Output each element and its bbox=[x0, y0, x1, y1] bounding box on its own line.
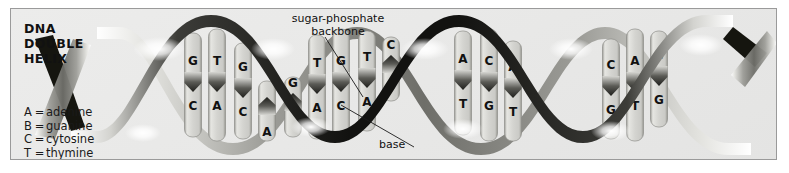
title-line-3: HELIX bbox=[24, 51, 84, 66]
base-letter-top: A bbox=[630, 54, 640, 68]
title-line-1: DNA bbox=[24, 21, 84, 36]
legend-eq-a: = bbox=[33, 106, 46, 120]
base-legend: A=adenine B=guanine C=cytosine T=thymine bbox=[24, 106, 94, 160]
base-letter-top: G bbox=[238, 60, 248, 74]
base-letter-bottom: T bbox=[459, 97, 468, 111]
legend-row-c: C=cytosine bbox=[24, 133, 94, 147]
legend-name-c: cytosine bbox=[46, 132, 94, 146]
base-letter-top: C bbox=[607, 58, 616, 72]
figure-title: DNA DOUBLE HELIX bbox=[24, 21, 84, 66]
diagram-panel: GCTAGCAGTAGCTACATCGATCGATCG bbox=[10, 8, 777, 160]
legend-name-a: adenine bbox=[46, 105, 92, 119]
base-letter-top: T bbox=[313, 56, 322, 70]
base-letter-top: C bbox=[485, 54, 494, 68]
legend-row-b: B=guanine bbox=[24, 120, 94, 134]
base-letter-bottom: A bbox=[262, 125, 272, 139]
base-pair-rung: A bbox=[259, 81, 276, 141]
legend-key-b: B bbox=[24, 120, 33, 134]
legend-name-t: thymine bbox=[46, 146, 93, 160]
base-letter-top: T bbox=[213, 54, 222, 68]
callout-label-base: base bbox=[379, 139, 421, 152]
legend-key-t: T bbox=[24, 147, 33, 161]
base-pair-rung: GC bbox=[185, 33, 202, 137]
base-letter-top: A bbox=[458, 52, 468, 66]
title-line-2: DOUBLE bbox=[24, 36, 84, 51]
legend-eq-c: = bbox=[33, 133, 46, 147]
base-pair-rung: TA bbox=[209, 29, 226, 141]
base-letter-top: T bbox=[363, 50, 372, 64]
legend-row-a: A=adenine bbox=[24, 106, 94, 120]
base-letter-bottom: C bbox=[337, 99, 346, 113]
base-letter-top: C bbox=[387, 38, 396, 52]
base-letter-bottom: A bbox=[312, 101, 322, 115]
base-letter-top: G bbox=[288, 76, 298, 90]
base-letter-bottom: G bbox=[654, 93, 664, 107]
base-letter-bottom: G bbox=[484, 99, 494, 113]
base-letter-bottom: C bbox=[239, 105, 248, 119]
base-letter-bottom: C bbox=[189, 99, 198, 113]
base-pair-rung: GC bbox=[235, 43, 252, 139]
base-letter-bottom: T bbox=[509, 105, 518, 119]
base-letter-top: G bbox=[188, 54, 198, 68]
legend-eq-t: = bbox=[33, 147, 46, 161]
legend-eq-b: = bbox=[33, 120, 46, 134]
legend-row-t: T=thymine bbox=[24, 147, 94, 161]
dna-double-helix-figure: GCTAGCAGTAGCTACATCGATCGATCG bbox=[0, 0, 789, 173]
callout-label-sugar-phosphate-backbone: sugar-phosphate backbone bbox=[264, 13, 412, 38]
base-letter-bottom: A bbox=[212, 99, 222, 113]
legend-key-a: A bbox=[24, 106, 33, 120]
base-pair-rung: GC bbox=[333, 29, 350, 141]
legend-name-b: guanine bbox=[46, 119, 92, 133]
legend-key-c: C bbox=[24, 133, 33, 147]
